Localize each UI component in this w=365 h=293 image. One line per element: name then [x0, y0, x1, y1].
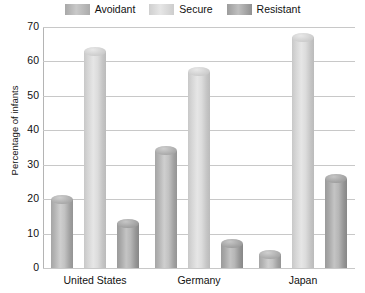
legend-item-resistant: Resistant	[227, 4, 301, 15]
bar-cap-ellipse	[188, 67, 210, 76]
legend-label-avoidant: Avoidant	[95, 4, 136, 15]
gridline	[43, 268, 355, 269]
x-tick-label: United States	[43, 274, 147, 286]
bar-body	[259, 254, 281, 268]
bar-resistant-united-states	[117, 223, 139, 268]
bar-cap-ellipse	[325, 174, 347, 183]
bar-body	[325, 179, 347, 269]
bar-avoidant-japan	[259, 254, 281, 268]
bar-cap-ellipse	[84, 47, 106, 56]
y-tick-label: 20	[1, 193, 39, 204]
bar-body	[188, 72, 210, 268]
gridline	[43, 27, 355, 28]
legend-swatch-avoidant	[65, 4, 90, 15]
y-tick-label: 60	[1, 55, 39, 66]
bar-cap-ellipse	[117, 219, 139, 228]
y-tick-label: 40	[1, 124, 39, 135]
y-tick-label: 10	[1, 228, 39, 239]
bar-body	[84, 51, 106, 268]
bar-cap-ellipse	[292, 33, 314, 42]
legend-item-secure: Secure	[149, 4, 212, 15]
bar-body	[221, 244, 243, 268]
x-tick-label: Japan	[251, 274, 355, 286]
bar-resistant-japan	[325, 179, 347, 269]
legend-swatch-secure	[149, 4, 174, 15]
bar-cap-ellipse	[51, 195, 73, 204]
bar-cap-ellipse	[259, 250, 281, 259]
legend-label-resistant: Resistant	[257, 4, 301, 15]
y-axis-tick-labels: 706050403020100	[0, 0, 39, 293]
y-tick-label: 30	[1, 159, 39, 170]
bar-secure-germany	[188, 72, 210, 268]
plot-area	[43, 27, 355, 268]
bar-cap-ellipse	[155, 146, 177, 155]
bar-body	[292, 37, 314, 268]
bar-resistant-germany	[221, 244, 243, 268]
bar-body	[117, 223, 139, 268]
legend-label-secure: Secure	[179, 4, 212, 15]
bar-avoidant-united-states	[51, 199, 73, 268]
bar-cap-ellipse	[221, 239, 243, 248]
y-tick-label: 0	[1, 262, 39, 273]
y-tick-label: 50	[1, 90, 39, 101]
legend-item-avoidant: Avoidant	[65, 4, 136, 15]
bar-body	[155, 151, 177, 268]
chart-legend: Avoidant Secure Resistant	[0, 0, 365, 18]
bar-secure-japan	[292, 37, 314, 268]
bar-secure-united-states	[84, 51, 106, 268]
x-tick-label: Germany	[147, 274, 251, 286]
y-tick-label: 70	[1, 21, 39, 32]
bar-avoidant-germany	[155, 151, 177, 268]
legend-swatch-resistant	[227, 4, 252, 15]
bar-body	[51, 199, 73, 268]
